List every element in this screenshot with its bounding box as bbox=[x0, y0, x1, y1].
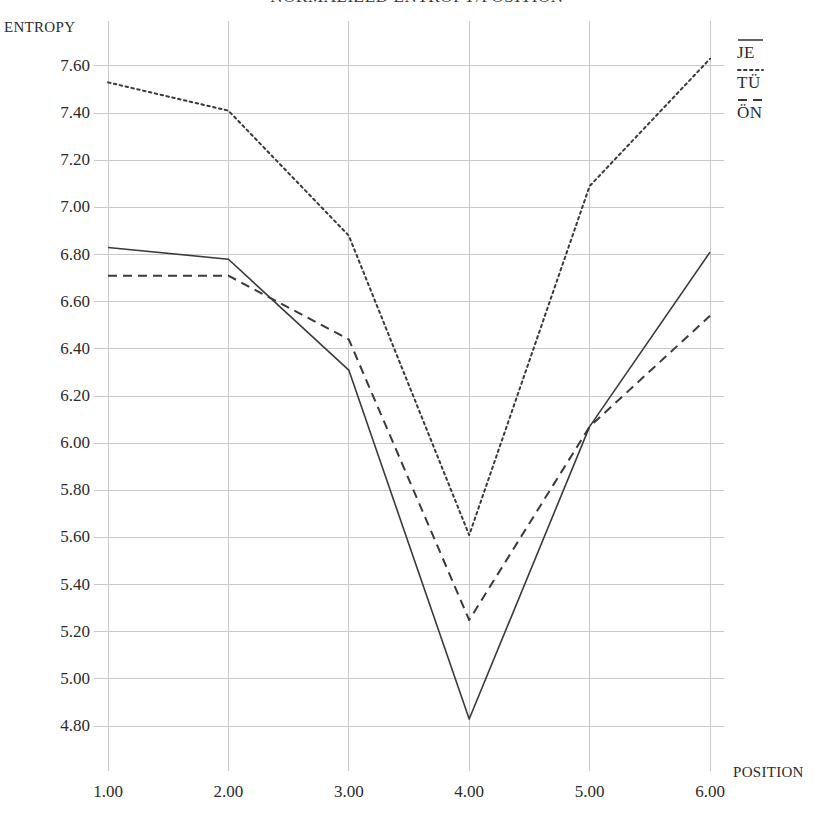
x-axis-tick-labels: 1.002.003.004.005.006.00 bbox=[108, 782, 710, 806]
y-tick-label: 7.40 bbox=[20, 103, 90, 123]
chart-canvas bbox=[108, 47, 710, 745]
y-tick-label: 7.20 bbox=[20, 150, 90, 170]
legend-label: TÜ bbox=[737, 73, 807, 92]
y-tick-label: 6.00 bbox=[20, 433, 90, 453]
x-tick-label: 2.00 bbox=[188, 782, 268, 802]
y-axis-tick-labels: 4.805.005.205.405.605.806.006.206.406.60… bbox=[18, 47, 90, 745]
y-tick-label: 6.20 bbox=[20, 386, 90, 406]
y-tick-label: 6.60 bbox=[20, 292, 90, 312]
y-tick-label: 5.40 bbox=[20, 575, 90, 595]
legend-line-swatch bbox=[737, 96, 767, 103]
y-tick-label: 5.80 bbox=[20, 480, 90, 500]
x-tick-label: 4.00 bbox=[429, 782, 509, 802]
legend-label: JE bbox=[737, 43, 807, 62]
legend-entry: TÜ bbox=[737, 66, 807, 92]
x-tick-label: 5.00 bbox=[550, 782, 630, 802]
y-axis-title: ENTROPY bbox=[4, 19, 75, 36]
data-series-line bbox=[108, 276, 710, 620]
y-tick-label: 7.60 bbox=[20, 56, 90, 76]
y-tick-label: 4.80 bbox=[20, 716, 90, 736]
y-tick-label: 5.60 bbox=[20, 527, 90, 547]
x-axis-title: POSITION bbox=[733, 764, 804, 781]
y-tick-label: 6.80 bbox=[20, 245, 90, 265]
legend-label: ÖN bbox=[737, 103, 807, 122]
y-tick-label: 5.00 bbox=[20, 669, 90, 689]
x-tick-label: 3.00 bbox=[309, 782, 389, 802]
data-series-line bbox=[108, 247, 710, 719]
chart-legend: JETÜÖN bbox=[737, 36, 807, 126]
legend-line-swatch bbox=[737, 36, 767, 43]
y-tick-label: 5.20 bbox=[20, 622, 90, 642]
y-tick-label: 6.40 bbox=[20, 339, 90, 359]
x-tick-label: 6.00 bbox=[670, 782, 750, 802]
y-tick-label: 7.00 bbox=[20, 197, 90, 217]
x-tick-label: 1.00 bbox=[68, 782, 148, 802]
legend-entry: JE bbox=[737, 36, 807, 62]
plot-area bbox=[108, 47, 710, 745]
legend-entry: ÖN bbox=[737, 96, 807, 122]
data-series-line bbox=[108, 59, 710, 535]
page-title: NORMALIZED ENTROPY/POSITION bbox=[0, 0, 834, 7]
legend-line-swatch bbox=[737, 66, 767, 73]
